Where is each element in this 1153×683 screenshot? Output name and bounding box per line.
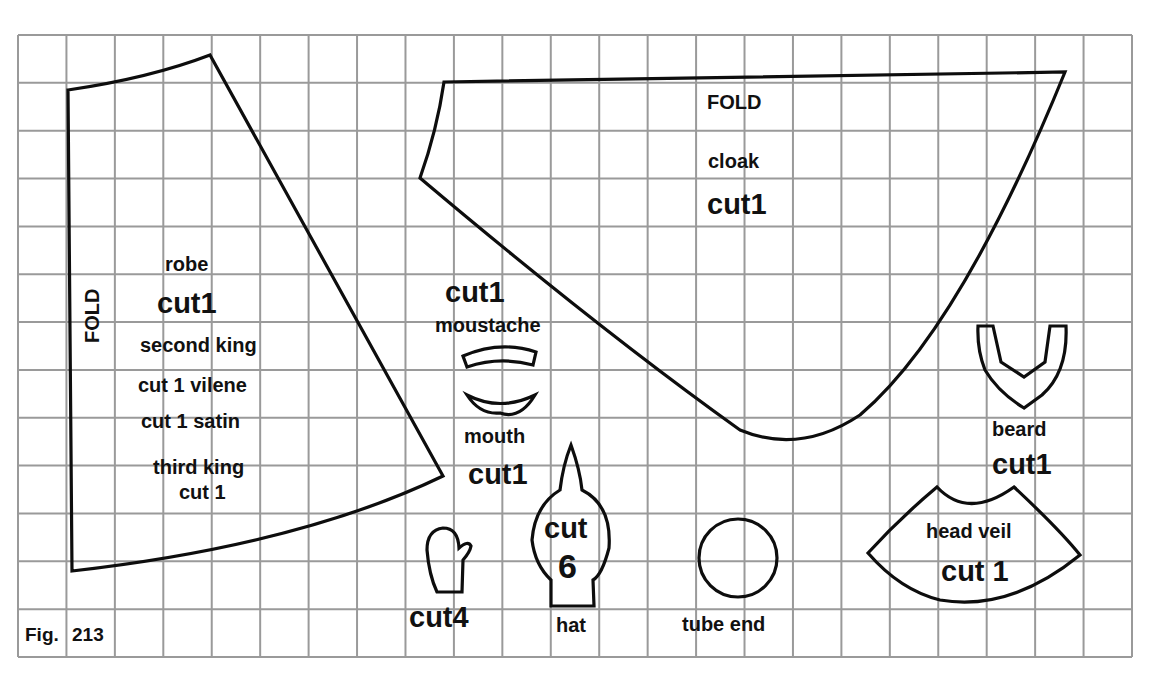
head-veil-cut: cut 1: [941, 555, 1009, 587]
mouth-name: mouth: [464, 425, 525, 447]
robe-cut: cut1: [157, 287, 217, 319]
cloak-fold-label: FOLD: [707, 91, 761, 113]
moustache-piece: cut1 moustache: [435, 276, 541, 367]
tube-end-name: tube end: [682, 613, 765, 635]
robe-fold-label: FOLD: [81, 289, 103, 343]
moustache-cut: cut1: [445, 276, 505, 308]
mitten-outline: [427, 528, 471, 592]
hat-piece: cut 6 hat: [532, 445, 609, 636]
beard-cut: cut1: [992, 448, 1052, 480]
mouth-cut: cut1: [468, 458, 528, 490]
beard-piece: beard cut1: [978, 326, 1066, 480]
mitten-piece: cut4: [409, 528, 471, 633]
robe-piece: FOLD robe cut1 second king cut 1 vilene …: [68, 55, 443, 571]
figure-caption: Fig. 213: [25, 624, 104, 645]
cloak-name: cloak: [708, 150, 760, 172]
robe-outline: [68, 55, 443, 571]
robe-cut-satin: cut 1 satin: [141, 410, 240, 432]
head-veil-name: head veil: [926, 520, 1012, 542]
hat-cut-word: cut: [544, 512, 588, 544]
head-veil-piece: head veil cut 1: [868, 487, 1080, 602]
cloak-cut: cut1: [707, 188, 767, 220]
moustache-outline: [463, 347, 536, 367]
mitten-cut: cut4: [409, 601, 469, 633]
caption-fig: Fig.: [25, 624, 59, 645]
hat-name: hat: [556, 614, 586, 636]
beard-outline: [978, 326, 1066, 408]
robe-name: robe: [165, 253, 208, 275]
mouth-piece: mouth cut1: [464, 395, 535, 490]
hat-cut-count: 6: [558, 547, 577, 585]
tube-end-outline: [699, 519, 777, 597]
robe-third-king: third king: [153, 456, 244, 478]
robe-cut-vilene: cut 1 vilene: [138, 374, 247, 396]
robe-second-king: second king: [140, 334, 257, 356]
robe-third-king-cut: cut 1: [179, 481, 226, 503]
pattern-figure: FOLD robe cut1 second king cut 1 vilene …: [0, 0, 1153, 683]
cloak-outline: [420, 72, 1065, 440]
cloak-piece: FOLD cloak cut1: [420, 72, 1065, 440]
moustache-name: moustache: [435, 314, 541, 336]
mouth-outline: [467, 395, 535, 415]
beard-name: beard: [992, 418, 1046, 440]
caption-number: 213: [72, 624, 104, 645]
